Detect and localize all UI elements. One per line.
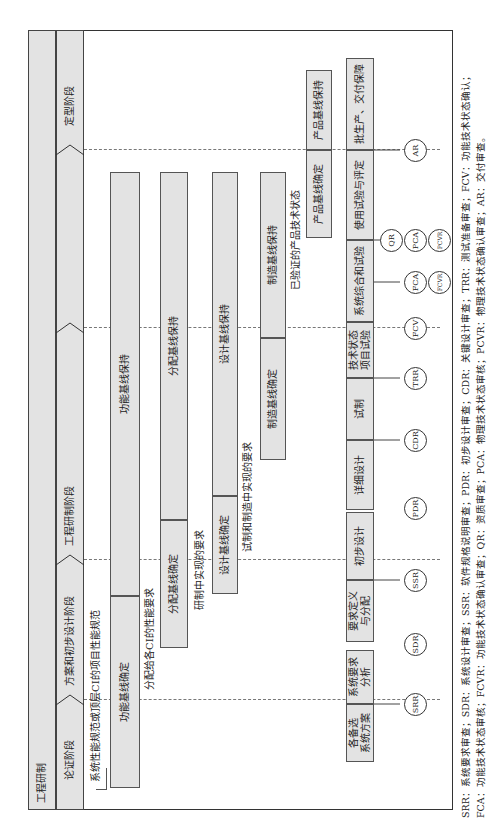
review-fcv: FCV (404, 317, 427, 340)
review-ssr: SSR (404, 569, 427, 592)
review-trr: TRR (404, 367, 427, 390)
legend-line-2: FCA：功能技术状态审核；FCVR：功能技术状态确认审查；QR：资质审查；PCA… (473, 71, 488, 818)
review-pcvr: PCVR (428, 229, 451, 252)
review-cdr: CDR (404, 429, 427, 452)
legend-line-1: SRR：系统要求审查；SDR：系统设计审查；SSR：软件规格说明审查；PDR：初… (458, 71, 473, 818)
review-pca: PCA (404, 229, 427, 252)
review-fcvr: FCVR (428, 271, 451, 294)
review-srr: SRR (404, 693, 427, 716)
diagram-canvas: 工程研制 论证阶段 方案和初步设计阶段 工程研制阶段 定型阶段 系统性能规范或顶… (0, 0, 489, 838)
legend: SRR：系统要求审查；SDR：系统设计审查；SSR：软件规格说明审查；PDR：初… (458, 71, 488, 818)
review-pdr: PDR (404, 497, 427, 520)
review-ar: AR (404, 139, 427, 162)
review-sdr: SDR (404, 633, 427, 656)
review-fca: FCA (404, 271, 427, 294)
review-qr: QR (380, 229, 403, 252)
